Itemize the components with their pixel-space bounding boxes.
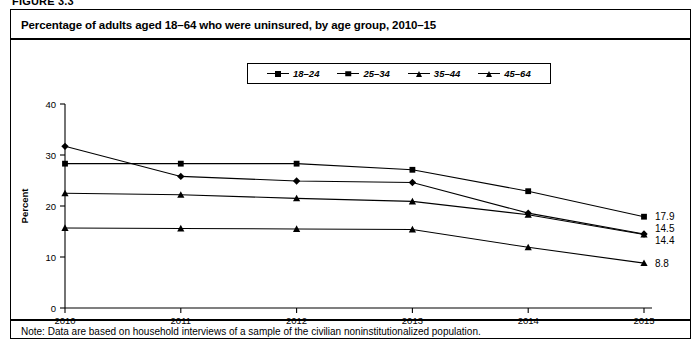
triangle-marker-icon (408, 69, 430, 79)
title-divider (11, 38, 690, 40)
legend-label-35-44: 35–44 (434, 68, 460, 79)
diamond-marker-icon (267, 69, 289, 79)
figure-root: FIGURE 3.3 Percentage of adults aged 18–… (0, 0, 700, 346)
legend-label-18-24: 18–24 (293, 68, 319, 79)
legend-label-25-34: 25–34 (363, 68, 389, 79)
figure-number-label: FIGURE 3.3 (12, 0, 74, 7)
legend-item-18-24[interactable]: 18–24 (267, 68, 319, 79)
legend-item-25-34[interactable]: 25–34 (337, 68, 389, 79)
legend-label-45-64: 45–64 (504, 68, 530, 79)
triangle-marker-icon-2 (478, 69, 500, 79)
square-marker-icon (337, 69, 359, 79)
chart-note: Note: Data are based on household interv… (21, 326, 481, 337)
legend-item-35-44[interactable]: 35–44 (408, 68, 460, 79)
legend-item-45-64[interactable]: 45–64 (478, 68, 530, 79)
figure-frame (10, 9, 691, 339)
note-divider (11, 319, 690, 321)
chart-title: Percentage of adults aged 18–64 who were… (21, 19, 436, 31)
chart-legend: 18–24 25–34 35–44 45–64 (247, 63, 551, 84)
